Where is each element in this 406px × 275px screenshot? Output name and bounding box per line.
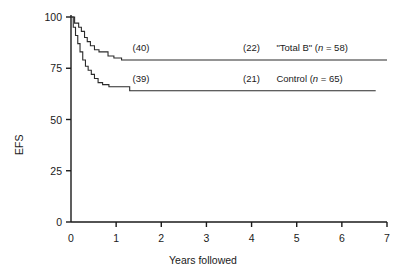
y-tick-label: 75 [20,63,62,74]
x-tick-label: 1 [101,233,131,244]
x-tick-label: 3 [191,233,221,244]
y-tick-label: 100 [20,12,62,23]
x-tick-label: 6 [327,233,357,244]
survival-curve [71,17,387,60]
x-tick-label: 0 [56,233,86,244]
at-risk-annotation: (22) [239,43,265,53]
x-tick-label: 4 [237,233,267,244]
at-risk-annotation: (39) [128,74,154,84]
series-label: Control (n = 65) [276,74,342,84]
y-axis-title: EFS [14,135,25,155]
y-tick-label: 0 [20,217,62,228]
y-tick-label: 50 [20,115,62,126]
x-axis-title: Years followed [0,255,406,266]
kaplan-meier-figure: EFS Years followed 025507510001234567(40… [0,0,406,275]
x-tick-label: 7 [372,233,402,244]
y-axis-ticks [66,17,71,222]
at-risk-annotation: (21) [239,74,265,84]
series-label: "Total B" (n = 58) [276,43,347,53]
at-risk-annotation: (40) [128,43,154,53]
y-tick-label: 25 [20,166,62,177]
x-axis-ticks [116,222,387,227]
x-tick-label: 2 [146,233,176,244]
x-tick-label: 5 [282,233,312,244]
